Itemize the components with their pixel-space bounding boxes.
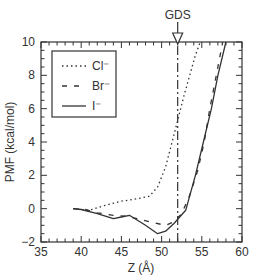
y-axis-title: PMF (kcal/mol) — [3, 102, 17, 183]
x-tick-label: 50 — [155, 245, 169, 259]
y-tick-label: 6 — [28, 102, 35, 116]
y-tick-label: 0 — [28, 202, 35, 216]
legend-label-i: I⁻ — [92, 99, 101, 113]
legend-label-br: Br⁻ — [92, 79, 110, 93]
x-tick-label: 45 — [115, 245, 129, 259]
y-tick-label: 8 — [28, 68, 35, 82]
x-axis-title: Z (Å) — [128, 260, 155, 275]
y-tick-label: 10 — [22, 35, 36, 49]
y-tick-label: 4 — [28, 135, 35, 149]
x-tick-label: 55 — [195, 245, 209, 259]
x-tick-label: 40 — [75, 245, 89, 259]
x-tick-label: 35 — [34, 245, 48, 259]
legend-label-cl: Cl⁻ — [92, 59, 109, 73]
pmf-chart: 354045505560−20246810 GDS Cl⁻ Br⁻ I⁻ Z (… — [0, 0, 255, 280]
y-tick-label: 2 — [28, 168, 35, 182]
x-tick-label: 60 — [235, 245, 249, 259]
gds-label: GDS — [165, 8, 191, 22]
legend: Cl⁻ Br⁻ I⁻ — [52, 51, 116, 117]
y-tick-label: −2 — [21, 235, 35, 249]
